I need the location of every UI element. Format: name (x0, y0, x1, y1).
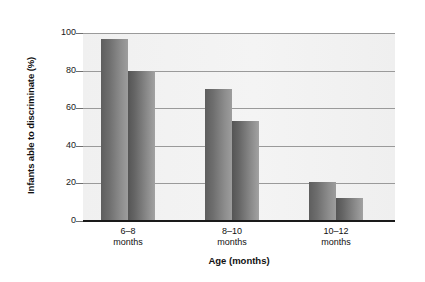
x-tick-label-range: 8–10 (222, 226, 242, 236)
chart-figure: Infants able to discriminate (%) 0204060… (0, 0, 425, 282)
bar (205, 89, 232, 221)
bar (309, 182, 336, 221)
y-axis-title: Infants able to discriminate (%) (25, 26, 36, 226)
x-tick-label-unit: months (80, 237, 176, 248)
y-tick-label: 20 (46, 178, 76, 187)
y-tick-mark (76, 221, 83, 222)
x-tick-label: 10–12months (288, 226, 384, 248)
x-axis-line (83, 220, 395, 222)
bar (232, 121, 259, 221)
y-tick-label: 100 (46, 28, 76, 37)
x-axis-title: Age (months) (83, 255, 395, 266)
y-tick-mark (76, 146, 83, 147)
x-tick-label-unit: months (288, 237, 384, 248)
x-tick-label-unit: months (184, 237, 280, 248)
x-tick-label-range: 6–8 (120, 226, 135, 236)
x-tick-label: 6–8months (80, 226, 176, 248)
y-tick-mark (76, 183, 83, 184)
bar (101, 39, 128, 221)
y-tick-label: 80 (46, 66, 76, 75)
y-tick-mark (76, 108, 83, 109)
y-tick-label: 0 (46, 216, 76, 225)
bar (336, 198, 363, 221)
x-tick-label: 8–10months (184, 226, 280, 248)
x-tick-label-range: 10–12 (323, 226, 348, 236)
y-tick-mark (76, 71, 83, 72)
y-tick-label: 60 (46, 103, 76, 112)
bar (128, 71, 155, 221)
bars-layer (83, 33, 395, 221)
y-tick-label: 40 (46, 141, 76, 150)
y-tick-mark (76, 33, 83, 34)
